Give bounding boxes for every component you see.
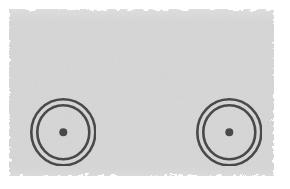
ring-target-glyph (196, 98, 263, 167)
center-dot (59, 128, 67, 136)
center-dot (225, 128, 233, 136)
ring-target-glyph (30, 98, 97, 167)
concentric-ring-target-right (196, 98, 263, 167)
image-canvas (0, 0, 290, 189)
concentric-ring-target-left (30, 98, 97, 167)
